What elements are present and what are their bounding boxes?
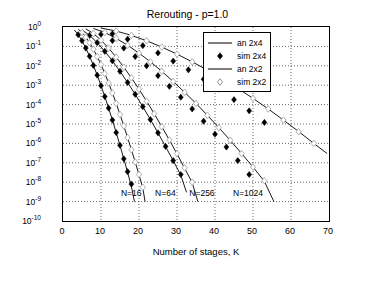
- curve-label: N=16: [121, 188, 142, 198]
- legend: an 2x4sim 2x4an 2x2sim 2x2: [203, 32, 271, 92]
- x-axis-label: Number of stages, K: [62, 246, 330, 257]
- y-tick-label: 10-8: [0, 175, 41, 187]
- legend-label: an 2x4: [237, 38, 263, 48]
- curve-label: N=64: [155, 188, 176, 198]
- x-tick-label: 0: [47, 226, 77, 236]
- x-tick-label: 10: [85, 226, 115, 236]
- y-tick-label: 10-9: [0, 195, 41, 207]
- x-tick-label: 50: [237, 226, 267, 236]
- legend-label: an 2x2: [237, 64, 263, 74]
- legend-item: sim 2x2: [207, 75, 266, 88]
- x-tick-label: 70: [313, 226, 343, 236]
- y-tick-label: 10-3: [0, 78, 41, 90]
- x-tick-label: 30: [161, 226, 191, 236]
- chart-title: Rerouting - p=1.0: [0, 8, 375, 20]
- x-tick-label: 60: [275, 226, 305, 236]
- y-tick-label: 10-6: [0, 136, 41, 148]
- legend-symbol: [207, 50, 233, 62]
- y-tick-label: 10-2: [0, 59, 41, 71]
- legend-item: sim 2x4: [207, 49, 266, 62]
- legend-symbol: [207, 37, 233, 49]
- y-tick-label: 10-5: [0, 117, 41, 129]
- x-tick-label: 40: [199, 226, 229, 236]
- y-tick-label: 10-7: [0, 156, 41, 168]
- legend-label: sim 2x2: [237, 77, 266, 87]
- y-tick-label: 10-1: [0, 39, 41, 51]
- y-tick-label: 100: [0, 20, 41, 32]
- curve-label: N=1024: [233, 188, 263, 198]
- curve-label: N=256: [189, 188, 214, 198]
- legend-label: sim 2x4: [237, 51, 266, 61]
- y-tick-label: 10-10: [0, 214, 41, 226]
- y-tick-label: 10-4: [0, 98, 41, 110]
- legend-item: an 2x2: [207, 62, 266, 75]
- chart-figure: Rerouting - p=1.0 Network cell loss prob…: [0, 0, 375, 282]
- x-tick-label: 20: [123, 226, 153, 236]
- legend-symbol: [207, 63, 233, 75]
- legend-item: an 2x4: [207, 36, 266, 49]
- legend-symbol: [207, 76, 233, 88]
